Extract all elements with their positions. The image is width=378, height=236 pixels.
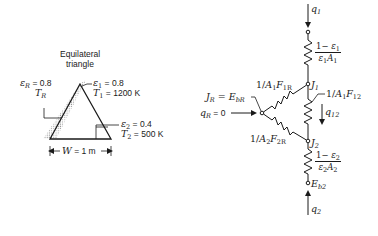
node-J1 xyxy=(306,82,310,86)
qR-label: qR = 0 xyxy=(200,108,225,118)
q1-label: q1 xyxy=(311,4,321,14)
J2-label: J2 xyxy=(311,138,319,148)
diagram-canvas xyxy=(0,0,378,236)
shape-label-line2: triangle xyxy=(66,60,94,69)
node-JR xyxy=(260,111,264,115)
resistance-2R: 1/A2F2R xyxy=(250,134,286,144)
JR-label: JR = EbR xyxy=(206,92,245,102)
node-Eb2 xyxy=(306,181,310,185)
resistance-surface-1: 1− ε1 ε1A1 xyxy=(315,42,341,63)
shape-label-line1: Equilateral xyxy=(60,50,100,59)
reradiating-surface-hatch xyxy=(43,80,86,139)
surface-R-temperature: TR xyxy=(35,88,46,98)
resistor-surface-2 xyxy=(304,143,312,181)
resistance-12: 1/A1F12 xyxy=(326,89,361,99)
Eb2-label: Eb2 xyxy=(311,179,326,189)
J1-label: J1 xyxy=(311,80,319,90)
width-dimension-label: W = 1 m xyxy=(62,146,96,156)
node-Eb1 xyxy=(306,30,310,34)
resistance-1R: 1/A1F1R xyxy=(256,80,292,90)
q12-label: q12 xyxy=(325,107,339,117)
resistor-surface-1 xyxy=(304,34,312,82)
surface-2-temperature: T2 = 500 K xyxy=(121,129,163,139)
resistor-12 xyxy=(304,86,312,139)
leader-R12 xyxy=(312,94,325,102)
resistance-surface-2: 1− ε2 ε2A2 xyxy=(315,151,341,172)
surface-1-temperature: T1 = 1200 K xyxy=(93,88,140,98)
leader-JR xyxy=(251,97,261,111)
node-J2 xyxy=(306,139,310,143)
surface-2-marker xyxy=(96,127,108,139)
q2-label: q2 xyxy=(311,204,321,214)
